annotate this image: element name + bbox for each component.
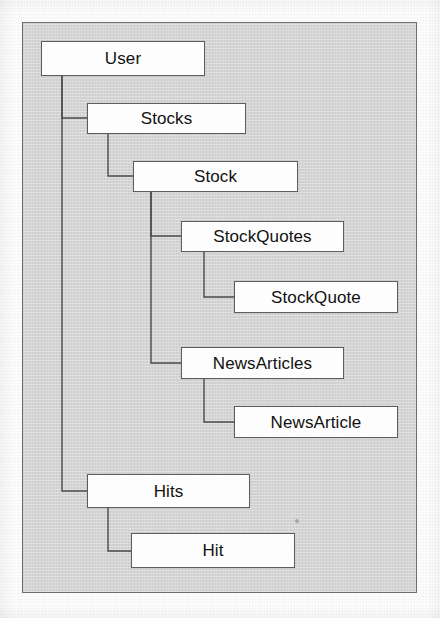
node-hits[interactable]: Hits [87, 474, 250, 508]
node-stocks[interactable]: Stocks [87, 103, 246, 134]
node-stockquote[interactable]: StockQuote [234, 281, 398, 313]
node-label-stockquote: StockQuote [271, 288, 361, 305]
node-newsarticle[interactable]: NewsArticle [234, 406, 398, 438]
node-label-stocks: Stocks [141, 110, 193, 127]
node-newsarticles[interactable]: NewsArticles [181, 347, 344, 379]
node-user[interactable]: User [41, 41, 205, 76]
node-stock[interactable]: Stock [133, 161, 298, 192]
node-hit[interactable]: Hit [131, 533, 295, 568]
scan-speck [295, 519, 299, 523]
node-label-user: User [105, 50, 141, 67]
node-label-stock: Stock [194, 168, 237, 185]
node-label-newsarticle: NewsArticle [271, 413, 362, 430]
node-label-newsarticles: NewsArticles [213, 354, 312, 371]
node-label-hit: Hit [202, 542, 223, 559]
node-stockquotes[interactable]: StockQuotes [181, 221, 344, 252]
node-label-hits: Hits [154, 482, 184, 499]
node-label-stockquotes: StockQuotes [213, 228, 311, 245]
hierarchy-diagram: UserStocksStockStockQuotesStockQuoteNews… [0, 0, 440, 618]
